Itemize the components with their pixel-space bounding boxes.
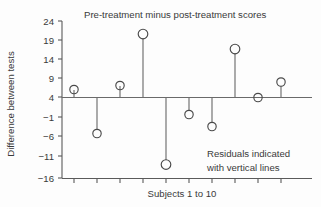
residual-plot-figure: Difference between tests Pre-treatment m… xyxy=(0,0,321,207)
data-point xyxy=(161,160,171,170)
y-tick-label: 19 xyxy=(43,35,54,46)
y-tick-label: −16 xyxy=(38,173,54,184)
data-point xyxy=(138,29,148,39)
chart-title: Pre-treatment minus post-treatment score… xyxy=(84,9,267,20)
y-tick-label: 14 xyxy=(43,54,54,65)
data-point xyxy=(230,44,240,54)
annotation-line-1: Residuals indicated xyxy=(207,148,290,159)
y-tick-label: −6 xyxy=(43,131,54,142)
y-tick-label: 9 xyxy=(49,73,54,84)
y-axis-ticks xyxy=(58,21,62,178)
y-axis-label: Difference between tests xyxy=(5,51,16,157)
y-tick-label: 4 xyxy=(49,92,55,103)
y-tick-label: −11 xyxy=(38,151,54,162)
annotation-line-2: with vertical lines xyxy=(206,162,280,173)
chart-canvas: Difference between tests Pre-treatment m… xyxy=(0,0,321,207)
y-axis-tick-labels: 24 19 14 9 4 −1 −6 −11 −16 xyxy=(38,16,55,184)
residual-stems xyxy=(74,38,281,160)
data-point xyxy=(208,122,216,130)
y-tick-label: 24 xyxy=(43,16,54,27)
x-axis-label: Subjects 1 to 10 xyxy=(148,188,217,199)
data-point xyxy=(93,129,101,137)
data-point xyxy=(185,110,193,118)
y-tick-label: −1 xyxy=(43,112,54,123)
data-point xyxy=(277,78,285,86)
